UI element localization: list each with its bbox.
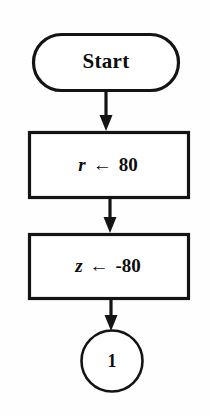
assign-z-operator: ← xyxy=(90,255,109,276)
flowchart-canvas: Start r←80 z←-80 xyxy=(0,0,210,416)
edge-r-to-z-arrowhead xyxy=(104,217,117,233)
assign-r-operator: ← xyxy=(93,154,112,175)
edge-r-to-z xyxy=(104,198,117,233)
node-start: Start xyxy=(34,35,179,91)
flowchart-diagram: Start r←80 z←-80 xyxy=(0,0,210,416)
node-assign-z: z←-80 xyxy=(30,235,189,299)
assign-z-value: -80 xyxy=(116,255,141,276)
edge-start-to-r-arrowhead xyxy=(100,115,113,131)
connector-label: 1 xyxy=(108,351,117,371)
assign-r-value: 80 xyxy=(119,154,138,175)
edge-z-to-connector-arrowhead xyxy=(105,315,118,331)
edge-start-to-r xyxy=(100,90,113,131)
assign-z-box-shape xyxy=(30,235,189,299)
assign-z-variable: z xyxy=(74,255,83,276)
node-assign-r: r←80 xyxy=(30,133,189,198)
assign-r-variable: r xyxy=(78,154,86,175)
node-connector-1: 1 xyxy=(82,331,143,392)
start-label: Start xyxy=(83,49,130,73)
edge-z-to-connector xyxy=(105,299,118,331)
